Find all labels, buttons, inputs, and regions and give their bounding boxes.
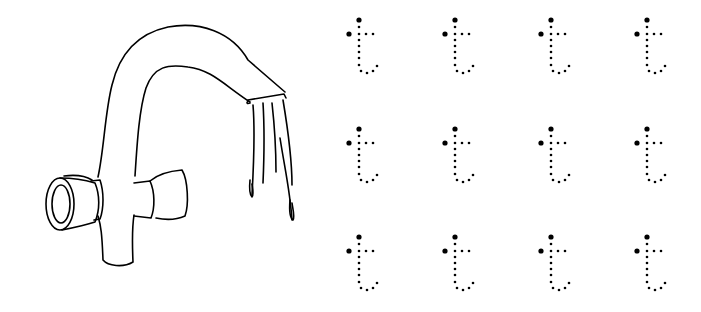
start-dot: [452, 126, 457, 131]
start-dot: [346, 31, 351, 36]
tracing-grid: [0, 0, 701, 312]
start-dot: [644, 126, 649, 131]
dotted-letter-t: [442, 234, 474, 291]
dotted-letter-t: [538, 17, 570, 74]
start-dot: [644, 17, 649, 22]
start-dot: [346, 248, 351, 253]
start-dot: [634, 140, 639, 145]
start-dot: [644, 234, 649, 239]
start-dot: [356, 17, 361, 22]
start-dot: [538, 248, 543, 253]
start-dot: [548, 17, 553, 22]
dotted-letter-t: [634, 234, 666, 291]
dotted-letter-t: [346, 17, 378, 74]
dotted-letter-t: [634, 17, 666, 74]
start-dot: [548, 126, 553, 131]
start-dot: [538, 31, 543, 36]
dotted-letter-t: [346, 126, 378, 183]
start-dot: [452, 234, 457, 239]
start-dot: [442, 140, 447, 145]
dotted-letter-t: [442, 17, 474, 74]
start-dot: [452, 17, 457, 22]
start-dot: [442, 248, 447, 253]
start-dot: [442, 31, 447, 36]
start-dot: [548, 234, 553, 239]
start-dot: [538, 140, 543, 145]
dotted-letter-t: [442, 126, 474, 183]
dotted-letter-t: [634, 126, 666, 183]
start-dot: [356, 126, 361, 131]
dotted-letter-t: [538, 126, 570, 183]
start-dot: [346, 140, 351, 145]
dotted-letter-t: [346, 234, 378, 291]
start-dot: [356, 234, 361, 239]
dotted-letter-t: [538, 234, 570, 291]
start-dot: [634, 248, 639, 253]
start-dot: [634, 31, 639, 36]
